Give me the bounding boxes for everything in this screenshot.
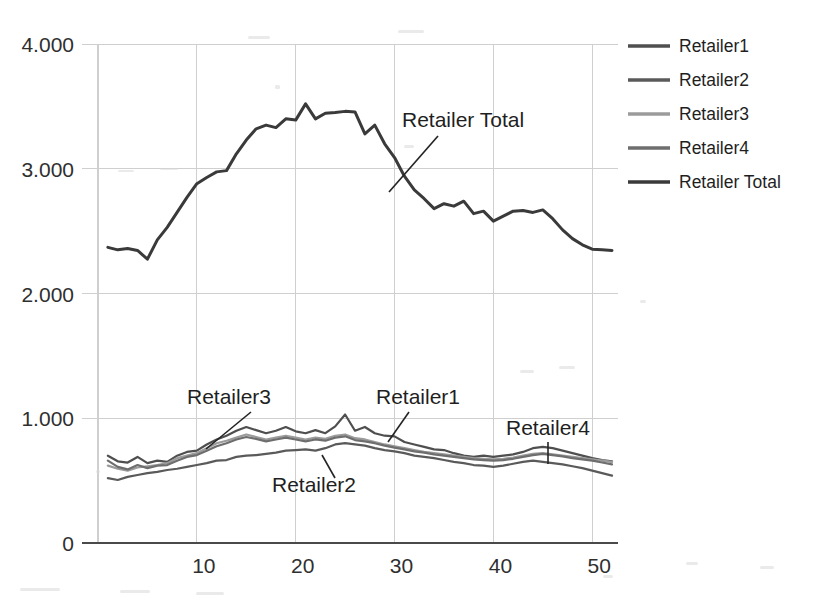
legend-label-retailer4[interactable]: Retailer4 xyxy=(679,138,749,158)
annotation-label-retailer-total: Retailer Total xyxy=(402,108,524,131)
y-tick-label-3.000: 3.000 xyxy=(21,158,74,181)
x-tick-label-40: 40 xyxy=(489,554,512,577)
annotation-label-retailer4: Retailer4 xyxy=(506,416,590,439)
x-tick-label-50: 50 xyxy=(588,554,611,577)
scan-speck xyxy=(275,85,280,89)
scan-speck xyxy=(398,30,424,33)
scan-speck xyxy=(760,566,774,569)
scan-speck xyxy=(96,470,100,473)
scan-speck xyxy=(120,590,150,593)
y-tick-label-4.000: 4.000 xyxy=(21,33,74,56)
annotation-label-retailer3: Retailer3 xyxy=(187,385,271,408)
scan-speck xyxy=(559,366,575,369)
scan-speck xyxy=(520,370,534,373)
legend-label-retailer1[interactable]: Retailer1 xyxy=(679,36,749,56)
scan-speck xyxy=(160,168,178,170)
legend-label-retailer3[interactable]: Retailer3 xyxy=(679,104,749,124)
y-tick-label-2.000: 2.000 xyxy=(21,283,74,306)
scan-speck xyxy=(118,170,134,172)
scan-speck xyxy=(248,36,270,39)
scan-speck xyxy=(640,300,646,303)
scan-speck xyxy=(196,592,224,595)
y-tick-label-0: 0 xyxy=(62,532,74,555)
x-tick-label-10: 10 xyxy=(192,554,215,577)
chart-container: 01.0002.0003.0004.000 1020304050 Retaile… xyxy=(0,0,813,603)
annotation-label-retailer2: Retailer2 xyxy=(272,473,356,496)
line-chart: 01.0002.0003.0004.000 1020304050 Retaile… xyxy=(0,0,813,603)
x-tick-label-30: 30 xyxy=(390,554,413,577)
scan-speck xyxy=(603,575,613,578)
scan-speck xyxy=(404,145,414,148)
y-tick-label-1.000: 1.000 xyxy=(21,407,74,430)
chart-background xyxy=(0,0,813,603)
annotation-label-retailer1: Retailer1 xyxy=(376,385,460,408)
legend-label-retailer2[interactable]: Retailer2 xyxy=(679,70,749,90)
scan-speck xyxy=(686,562,698,565)
legend-label-retailer-total[interactable]: Retailer Total xyxy=(679,172,781,192)
x-tick-label-20: 20 xyxy=(291,554,314,577)
scan-speck xyxy=(20,588,60,591)
